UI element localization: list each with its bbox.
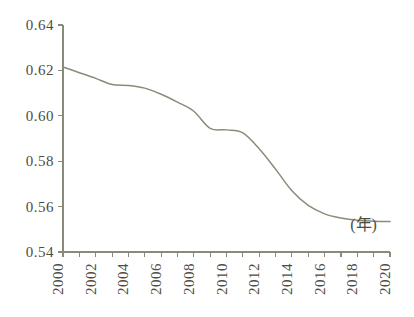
x-axis-unit-label: (年) — [350, 216, 377, 234]
x-axis-group: 2000200220042006200820102012201420162018… — [50, 252, 393, 295]
y-tick-label: 0.64 — [26, 17, 54, 33]
y-tick-label: 0.56 — [26, 199, 54, 215]
chart-canvas: 0.640.620.600.580.560.54 200020022004200… — [0, 0, 414, 317]
x-tick-label: 2004 — [115, 263, 131, 295]
y-tick-label: 0.54 — [26, 244, 54, 260]
x-tick-label: 2016 — [312, 263, 328, 295]
y-tick-marks — [58, 25, 63, 252]
axis-unit-annotation-group: (年) — [350, 216, 377, 234]
x-tick-label: 2000 — [50, 263, 66, 295]
line-chart: 0.640.620.600.580.560.54 200020022004200… — [0, 0, 414, 317]
x-tick-label: 2018 — [344, 263, 360, 295]
x-tick-label: 2008 — [181, 263, 197, 295]
series-group — [63, 67, 390, 222]
y-tick-label: 0.58 — [26, 153, 54, 169]
x-tick-label-group: 2000200220042006200820102012201420162018… — [50, 263, 393, 295]
y-tick-label: 0.60 — [26, 108, 54, 124]
x-tick-marks — [63, 252, 390, 257]
y-tick-label: 0.62 — [26, 62, 54, 78]
x-tick-label: 2006 — [148, 263, 164, 295]
data-line-series-1 — [63, 67, 390, 222]
x-tick-label: 2014 — [279, 263, 295, 295]
x-tick-label: 2020 — [377, 263, 393, 295]
y-tick-label-group: 0.640.620.600.580.560.54 — [26, 17, 54, 260]
x-tick-label: 2012 — [246, 263, 262, 295]
y-axis-group: 0.640.620.600.580.560.54 — [26, 17, 63, 260]
x-tick-label: 2002 — [83, 263, 99, 295]
x-tick-label: 2010 — [214, 263, 230, 295]
